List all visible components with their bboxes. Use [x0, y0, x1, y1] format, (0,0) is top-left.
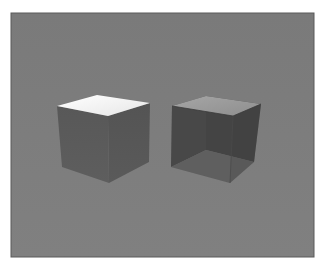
render-scene — [0, 0, 328, 269]
image-frame — [11, 13, 314, 257]
